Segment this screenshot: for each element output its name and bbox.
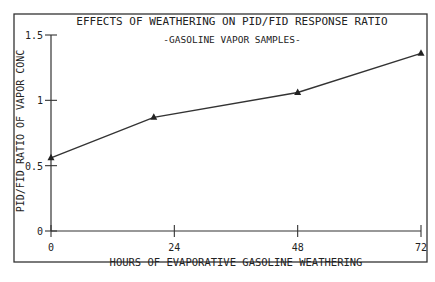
x-tick-label: 48 bbox=[292, 242, 304, 253]
chart-subtitle: -GASOLINE VAPOR SAMPLES- bbox=[163, 34, 300, 45]
y-axis: 00.511.5 bbox=[25, 30, 57, 237]
chart-title: EFFECTS OF WEATHERING ON PID/FID RESPONS… bbox=[76, 15, 387, 28]
triangle-marker-icon bbox=[418, 49, 425, 56]
chart-frame bbox=[14, 14, 427, 262]
x-tick-label: 24 bbox=[168, 242, 180, 253]
y-tick-label: 0 bbox=[37, 226, 43, 237]
y-tick-label: 1 bbox=[37, 95, 43, 106]
y-tick-label: 0.5 bbox=[25, 161, 43, 172]
x-tick-label: 0 bbox=[48, 242, 54, 253]
x-axis-label: HOURS OF EVAPORATIVE GASOLINE WEATHERING bbox=[110, 256, 363, 268]
y-axis-label: PID/FID RATIO OF VAPOR CONC bbox=[15, 50, 26, 213]
x-axis: 0244872 bbox=[48, 225, 427, 253]
x-tick-label: 72 bbox=[415, 242, 427, 253]
chart: EFFECTS OF WEATHERING ON PID/FID RESPONS… bbox=[0, 0, 435, 282]
series-line bbox=[51, 53, 421, 158]
data-series bbox=[48, 49, 425, 160]
y-tick-label: 1.5 bbox=[25, 30, 43, 41]
